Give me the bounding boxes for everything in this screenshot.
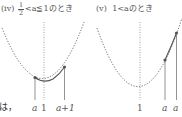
panel-v-title: (v) 1<aのとき [96, 5, 153, 13]
label-a-v: a [162, 104, 167, 113]
label-a-plus-1-iv: a+1 [56, 104, 75, 113]
panel-iv-graph [2, 22, 84, 100]
label-a-iv: a [32, 104, 37, 113]
parabola-diagram [0, 0, 182, 117]
panel-v-graph [97, 18, 182, 100]
label-axis-1-v: 1 [137, 104, 143, 113]
point-a-iv [33, 76, 36, 79]
side-text: は， [0, 103, 17, 112]
parabola-solid-segment-v [165, 33, 177, 60]
point-a-v [163, 58, 166, 61]
parabola-dotted-iv [2, 22, 84, 79]
panel-v-condition: 1<aのとき [112, 4, 153, 13]
panel-iv-title: (iv) 1 2 <a≦1のとき [1, 2, 73, 16]
label-a-plus-1-v: a [173, 104, 178, 113]
point-a-plus-1-iv [63, 65, 66, 68]
parabola-dotted-v [97, 18, 182, 87]
parabola-solid-segment-iv [35, 67, 65, 81]
label-axis-1-iv: 1 [41, 104, 47, 113]
panel-iv-condition: <a≦1のとき [25, 4, 73, 13]
fraction-one-half: 1 2 [18, 2, 24, 16]
panel-v-marker: (v) [96, 4, 107, 13]
point-a-plus-1-v [175, 31, 178, 34]
panel-iv-marker: (iv) [1, 4, 14, 13]
